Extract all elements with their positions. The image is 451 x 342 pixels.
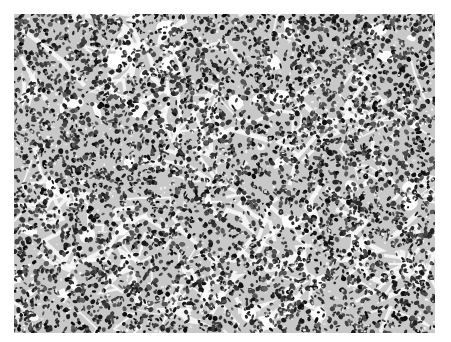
- tissue-texture: [14, 14, 435, 333]
- micrograph-image: [14, 14, 435, 333]
